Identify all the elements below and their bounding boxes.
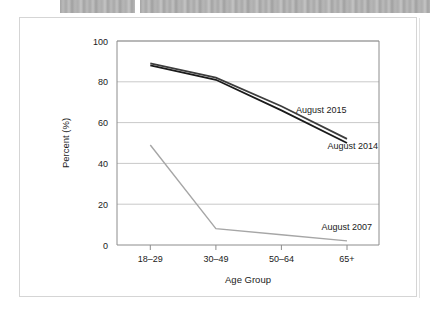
- line-chart: 100 80 60 40 20 0 Percent (%) 18–29 30–4…: [20, 18, 418, 298]
- redacted-header-strip: [0, 0, 435, 13]
- series-line-august-2007: [150, 145, 347, 241]
- series-label-august-2007: August 2007: [321, 222, 372, 232]
- series-label-august-2014: August 2014: [327, 141, 378, 151]
- y-tick-label-0: 0: [103, 241, 108, 251]
- y-axis-title: Percent (%): [60, 118, 71, 168]
- y-tick-label-80: 80: [98, 77, 108, 87]
- x-tick-label-65plus: 65+: [339, 254, 354, 264]
- x-tick-label-50-64: 50–64: [269, 254, 294, 264]
- x-tick-label-30-49: 30–49: [203, 254, 228, 264]
- x-axis-title: Age Group: [225, 274, 271, 285]
- y-tick-label-20: 20: [98, 200, 108, 210]
- y-tick-label-40: 40: [98, 159, 108, 169]
- redacted-heading-bar: [60, 0, 135, 13]
- x-tick-marks: [150, 245, 347, 250]
- y-tick-label-60: 60: [98, 118, 108, 128]
- series-label-august-2015: August 2015: [296, 105, 347, 115]
- x-tick-label-18-29: 18–29: [138, 254, 163, 264]
- y-tick-label-100: 100: [93, 37, 108, 47]
- redacted-text-bar: [140, 0, 430, 13]
- chart-svg: 100 80 60 40 20 0 Percent (%) 18–29 30–4…: [20, 18, 418, 298]
- figure-card: 100 80 60 40 20 0 Percent (%) 18–29 30–4…: [19, 17, 417, 297]
